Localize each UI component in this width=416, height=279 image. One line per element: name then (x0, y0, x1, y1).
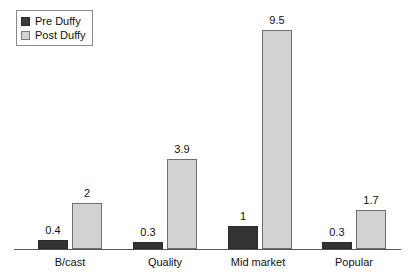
bar-pre-duffy-quality (133, 242, 163, 249)
plot-area: 0.4 2 B/cast 0.3 3.9 Quality 1 9.5 Mid m… (0, 0, 416, 279)
bar-pre-duffy-bcast (38, 240, 68, 249)
x-axis-line (14, 249, 401, 250)
bar-post-duffy-popular (356, 210, 386, 249)
bar-value-post-duffy-popular: 1.7 (356, 194, 386, 206)
bar-value-pre-duffy-bcast: 0.4 (38, 224, 68, 236)
x-axis-label-popular: Popular (324, 256, 384, 268)
bar-value-pre-duffy-mid-market: 1 (228, 210, 258, 222)
x-axis-label-mid-market: Mid market (220, 256, 296, 268)
bar-value-pre-duffy-popular: 0.3 (322, 226, 352, 238)
x-axis-label-quality: Quality (135, 256, 195, 268)
bar-value-post-duffy-mid-market: 9.5 (262, 14, 292, 26)
bar-value-post-duffy-bcast: 2 (72, 187, 102, 199)
bar-post-duffy-mid-market (262, 30, 292, 249)
bar-pre-duffy-mid-market (228, 226, 258, 249)
bar-value-pre-duffy-quality: 0.3 (133, 226, 163, 238)
bar-value-post-duffy-quality: 3.9 (167, 143, 197, 155)
bar-pre-duffy-popular (322, 242, 352, 249)
bar-chart: Pre Duffy Post Duffy 0.4 2 B/cast 0.3 3.… (0, 0, 416, 279)
x-axis-label-bcast: B/cast (40, 256, 100, 268)
bar-post-duffy-bcast (72, 203, 102, 249)
bar-post-duffy-quality (167, 159, 197, 249)
